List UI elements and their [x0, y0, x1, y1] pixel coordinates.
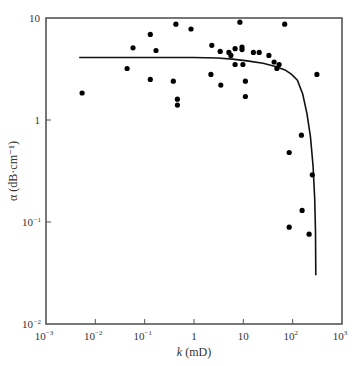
x-tick-label: 103	[333, 329, 348, 342]
log-log-scatter-plot: 10−310−210−1110102103 10−210−1110 k (mD)…	[0, 0, 357, 366]
chart-container: 10−310−210−1110102103 10−210−1110 k (mD)…	[0, 0, 357, 366]
plot-frame	[46, 18, 342, 324]
data-point	[274, 66, 279, 71]
y-tick-label: 1	[35, 114, 41, 126]
data-point	[80, 90, 85, 95]
x-axis-label: k (mD)	[177, 345, 211, 359]
data-point	[272, 59, 277, 64]
y-tick-exponent: −1	[34, 216, 42, 224]
data-point	[148, 77, 153, 82]
data-point	[239, 47, 244, 52]
data-point	[233, 62, 238, 67]
data-point	[240, 62, 245, 67]
data-point	[243, 79, 248, 84]
data-points	[80, 20, 320, 237]
data-point	[233, 46, 238, 51]
data-point	[237, 20, 242, 25]
y-tick-label: 10	[22, 318, 34, 330]
data-point	[300, 208, 305, 213]
data-point	[175, 97, 180, 102]
model-curve	[79, 58, 316, 276]
data-point	[287, 225, 292, 230]
data-point	[209, 43, 214, 48]
data-point	[266, 53, 271, 58]
data-point	[125, 66, 130, 71]
data-point	[307, 232, 312, 237]
data-point	[218, 83, 223, 88]
y-tick-exponent: −2	[34, 318, 42, 326]
data-point	[314, 72, 319, 77]
data-point	[282, 22, 287, 27]
data-point	[130, 45, 135, 50]
data-point	[243, 94, 248, 99]
data-point	[257, 50, 262, 55]
data-point	[171, 79, 176, 84]
data-point	[310, 172, 315, 177]
x-tick-label: 10	[238, 330, 250, 342]
x-axis-ticks: 10−310−210−1110102103	[35, 319, 348, 342]
data-point	[153, 48, 158, 53]
data-point	[251, 50, 256, 55]
data-point	[175, 103, 180, 108]
x-tick-label: 1	[191, 330, 197, 342]
x-tick-label: 10−2	[84, 329, 103, 342]
data-point	[148, 32, 153, 37]
x-tick-label: 10−3	[35, 329, 54, 342]
data-point	[208, 72, 213, 77]
y-tick-label: 10	[22, 216, 34, 228]
data-point	[287, 150, 292, 155]
x-tick-label: 10−1	[133, 329, 152, 342]
data-point	[173, 22, 178, 27]
data-point	[218, 49, 223, 54]
data-point	[299, 133, 304, 138]
x-tick-label: 102	[283, 329, 298, 342]
y-tick-label: 10	[29, 12, 41, 24]
data-point	[228, 53, 233, 58]
data-point	[188, 26, 193, 31]
y-axis-label: α (dB·cm⁻¹)	[6, 141, 20, 201]
